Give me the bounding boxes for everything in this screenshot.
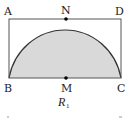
caption-r: R	[57, 95, 66, 109]
point-m-dot	[64, 76, 68, 80]
cropped-mark-right	[119, 116, 122, 118]
geometry-figure: A N D B M C R 1	[0, 0, 127, 122]
label-d: D	[115, 5, 124, 18]
caption-subscript: 1	[66, 102, 70, 110]
label-n: N	[61, 4, 71, 17]
label-a: A	[3, 5, 13, 18]
label-m: M	[61, 82, 72, 95]
label-c: C	[117, 82, 125, 95]
shaded-semicircle	[9, 30, 121, 78]
figure-canvas: A N D B M C R 1	[0, 0, 127, 122]
cropped-mark-left	[7, 116, 9, 118]
label-b: B	[4, 82, 12, 95]
point-n-dot	[64, 17, 68, 21]
